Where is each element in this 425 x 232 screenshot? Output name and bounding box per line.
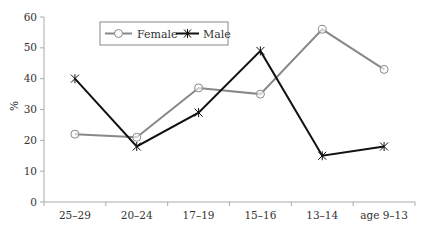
y-tick-label: 40 [24,72,37,84]
legend: Female Male [100,22,231,45]
asterisk-marker-icon [133,142,141,151]
y-tick-label: 50 [24,41,37,53]
asterisk-marker-icon [195,108,203,117]
x-tick-label: 17–19 [183,209,215,221]
y-tick-label: 20 [24,134,37,146]
y-tick-label: 30 [24,103,37,115]
x-tick-label: 25–29 [59,209,91,221]
x-tick-label: 13–14 [306,209,338,221]
circle-marker-icon [195,84,203,92]
y-tick-label: 60 [24,11,37,23]
circle-marker-icon [256,90,264,98]
legend-label-male: Male [203,28,231,41]
y-ticks: 0102030405060 [24,11,44,208]
circle-marker-icon [133,133,141,141]
x-tick-label: age 9–13 [360,209,408,221]
series-male [71,46,388,160]
y-tick-label: 10 [24,165,37,177]
asterisk-marker-icon [71,74,79,83]
x-tick-label: 20–24 [121,209,153,221]
circle-marker-icon [380,65,388,73]
x-ticks: 25–2920–2417–1915–1613–14age 9–13 [44,202,415,221]
chart-canvas: 0102030405060 25–2920–2417–1915–1613–14a… [0,0,425,232]
legend-label-female: Female [137,28,178,41]
y-axis-label: % [8,101,20,111]
line-chart: 0102030405060 25–2920–2417–1915–1613–14a… [0,0,425,232]
circle-marker-icon [115,30,123,38]
x-tick-label: 15–16 [244,209,276,221]
circle-marker-icon [318,25,326,33]
asterisk-marker-icon [256,46,264,55]
circle-marker-icon [71,130,79,138]
y-tick-label: 0 [30,196,37,208]
series-layer [71,25,388,160]
